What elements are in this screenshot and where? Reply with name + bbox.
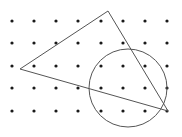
grid-dot [121,41,124,44]
grid-dot [165,64,168,67]
grid-dot [121,109,124,112]
grid-dot [32,109,35,112]
grid-dot [10,19,13,22]
grid-dot [54,64,57,67]
grid-dot [99,109,102,112]
grid-dot [54,19,57,22]
grid-dot [99,19,102,22]
dot-grid [10,19,168,112]
grid-dot [10,86,13,89]
grid-dot [121,86,124,89]
grid-dot [10,109,13,112]
grid-dot [32,86,35,89]
grid-dot [32,64,35,67]
grid-dot [143,86,146,89]
grid-dot [10,64,13,67]
grid-dot [143,19,146,22]
triangle [20,11,168,111]
grid-dot [32,19,35,22]
grid-dot [165,19,168,22]
grid-dot [54,109,57,112]
grid-dot [76,86,79,89]
grid-dot [76,64,79,67]
grid-dot [99,64,102,67]
grid-dot [76,41,79,44]
grid-dot [143,109,146,112]
grid-dot [76,109,79,112]
grid-dot [32,41,35,44]
grid-dot [99,41,102,44]
grid-dot [99,86,102,89]
geometry-figure [0,0,182,137]
grid-dot [143,41,146,44]
grid-dot [165,41,168,44]
grid-dot [54,86,57,89]
grid-dot [121,19,124,22]
grid-dot [76,19,79,22]
grid-dot [10,41,13,44]
grid-dot [143,64,146,67]
grid-dot [121,64,124,67]
